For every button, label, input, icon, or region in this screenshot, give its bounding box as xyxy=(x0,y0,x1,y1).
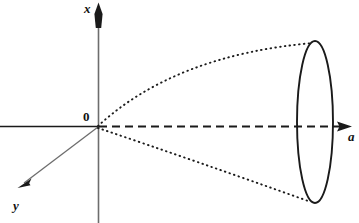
x-axis-arrowhead-icon xyxy=(94,3,102,29)
y-axis-line xyxy=(24,127,98,183)
cone-figure: x y a 0 xyxy=(0,0,359,223)
figure-canvas xyxy=(0,0,359,223)
circular-cross-section-ellipse xyxy=(297,41,333,203)
lower-cone-edge-curve xyxy=(98,128,311,202)
a-axis-label: a xyxy=(348,130,355,143)
y-axis-arrowhead-icon xyxy=(18,179,32,189)
origin-label: 0 xyxy=(83,110,90,123)
y-axis-label: y xyxy=(13,199,19,212)
x-axis-label: x xyxy=(84,2,91,15)
upper-cone-edge-curve xyxy=(98,43,313,126)
